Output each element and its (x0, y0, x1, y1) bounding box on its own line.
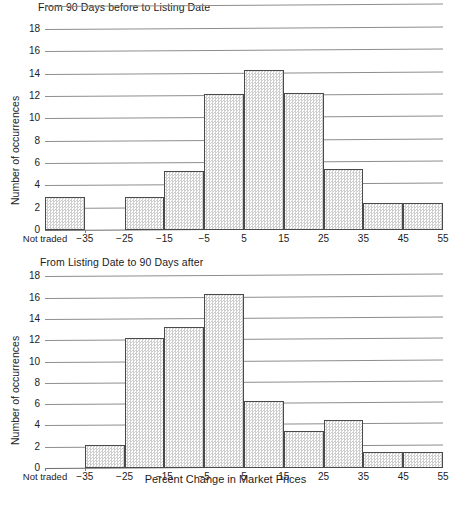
histogram-bar (244, 70, 284, 230)
y-axis-tick-label: 2 (34, 203, 40, 213)
histogram-bar (324, 420, 364, 468)
chart-panel-top: From 90 Days before to Listing Date Numb… (0, 0, 451, 250)
histogram-bar (244, 401, 284, 468)
y-axis-tick-label: 6 (34, 399, 40, 409)
y-axis-tick-label: 14 (29, 69, 40, 79)
histogram-bar (363, 203, 403, 230)
histogram-bar (403, 452, 443, 468)
x-axis-tick-label: −35 (76, 234, 93, 244)
plot-area-top: 024681012141618 Not traded−35−25−15−5515… (45, 18, 443, 230)
bar-series-bottom (45, 271, 443, 468)
y-axis-title-bottom: Number of occurrences (9, 336, 21, 445)
y-axis-tick-label: 12 (29, 91, 40, 101)
x-axis-tick-label: Not traded (23, 234, 67, 244)
chart-title-top: From 90 Days before to Listing Date (38, 1, 210, 13)
histogram-bar (164, 171, 204, 230)
x-axis-tick-label: 15 (278, 234, 289, 244)
y-axis-tick-label: 10 (29, 357, 40, 367)
y-axis-tick-label: 4 (34, 420, 40, 430)
y-axis-tick-label: 18 (29, 24, 40, 34)
y-axis-tick-label: 16 (29, 46, 40, 56)
histogram-bar (204, 94, 244, 230)
y-axis-tick-label: 4 (34, 180, 40, 190)
bar-series-top (45, 18, 443, 230)
x-axis-tick-label: −5 (198, 234, 209, 244)
y-axis-tick-label: 8 (34, 136, 40, 146)
x-axis-tick-label: 5 (241, 234, 247, 244)
histogram-bar (284, 93, 324, 230)
histogram-bar (284, 431, 324, 468)
histogram-bar (363, 452, 403, 468)
histogram-bar (403, 203, 443, 230)
chart-panel-bottom: From Listing Date to 90 Days after Numbe… (0, 255, 451, 490)
x-axis-tick-label: 55 (437, 234, 448, 244)
y-axis-tick-label: 14 (29, 314, 40, 324)
histogram-bar (125, 338, 165, 468)
y-axis-title-top: Number of occurrences (9, 96, 21, 205)
histogram-bar (204, 294, 244, 468)
plot-area-bottom: 024681012141618 Not traded−35−25−15−5515… (45, 271, 443, 468)
chart-title-bottom: From Listing Date to 90 Days after (40, 256, 203, 268)
scan-edge-artifact (0, 505, 451, 513)
x-axis-title: Percent Change in Market Prices (0, 473, 451, 485)
histogram-figure: From 90 Days before to Listing Date Numb… (0, 0, 451, 513)
y-axis-tick-label: 16 (29, 293, 40, 303)
y-axis-tick-label: 18 (29, 271, 40, 281)
histogram-bar (324, 169, 364, 230)
histogram-bar (164, 327, 204, 468)
x-axis-tick-label: 35 (358, 234, 369, 244)
histogram-bar (125, 197, 165, 230)
y-axis-tick-label: 6 (34, 158, 40, 168)
x-axis-tick-label: −25 (116, 234, 133, 244)
x-axis-tick-label: 45 (398, 234, 409, 244)
y-axis-tick-label: 2 (34, 442, 40, 452)
y-axis-tick-label: 8 (34, 378, 40, 388)
x-axis-tick-label: −15 (156, 234, 173, 244)
y-axis-tick-label: 12 (29, 335, 40, 345)
histogram-bar (45, 197, 85, 230)
y-axis-tick-label: 10 (29, 113, 40, 123)
histogram-bar (85, 445, 125, 468)
x-axis-tick-label: 25 (318, 234, 329, 244)
